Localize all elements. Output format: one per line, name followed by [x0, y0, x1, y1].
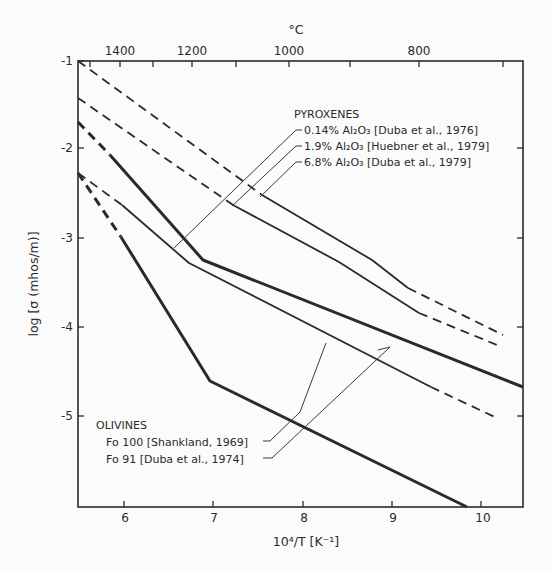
pyroxenes-heading: PYROXENES	[294, 108, 359, 121]
leader-olivine-fo91	[263, 347, 390, 458]
leader-pyroxene-0.14	[174, 130, 302, 248]
y-tick--1: -1	[61, 54, 73, 68]
top-tick-800: 800	[408, 44, 431, 58]
y-tick--5: -5	[61, 409, 73, 423]
leader-olivine-fo100	[263, 343, 326, 441]
top-axis-title: °C	[289, 22, 304, 37]
conductivity-chart: 1400 1200 1000 800 °C -1 -2 -3 -4 -5 log…	[0, 0, 552, 573]
x-tick-10: 10	[475, 511, 490, 525]
x-tick-7: 7	[210, 511, 218, 525]
olivines-heading: OLIVINES	[96, 419, 147, 432]
y-tick--2: -2	[61, 141, 73, 155]
x-tick-6: 6	[121, 511, 129, 525]
pyroxenes-legend: PYROXENES 0.14% Al₂O₃ [Duba et al., 1976…	[174, 108, 489, 248]
pyroxene-label-0.14: 0.14% Al₂O₃ [Duba et al., 1976]	[304, 124, 478, 137]
pyroxene-label-1.9: 1.9% Al₂O₃ [Huebner et al., 1979]	[304, 140, 489, 153]
olivine-label-fo91: Fo 91 [Duba et al., 1974]	[106, 453, 244, 466]
y-axis: -1 -2 -3 -4 -5 log [σ (mhos/m)]	[26, 54, 84, 423]
olivine-label-fo100: Fo 100 [Shankland, 1969]	[106, 436, 248, 449]
top-tick-1400: 1400	[105, 44, 136, 58]
x-tick-8: 8	[300, 511, 308, 525]
top-tick-1000: 1000	[274, 44, 305, 58]
leader-pyroxene-6.8	[260, 162, 302, 197]
y-tick--4: -4	[61, 320, 73, 334]
right-axis	[517, 148, 523, 416]
top-tick-1200: 1200	[177, 44, 208, 58]
y-tick--3: -3	[61, 231, 73, 245]
x-axis: 6 7 8 9 10 10⁴/T [K⁻¹]	[121, 501, 490, 549]
y-axis-title: log [σ (mhos/m)]	[26, 231, 41, 336]
pyroxene-label-6.8: 6.8% Al₂O₃ [Duba et al., 1979]	[304, 156, 471, 169]
x-tick-9: 9	[389, 511, 397, 525]
x-axis-title: 10⁴/T [K⁻¹]	[273, 534, 339, 549]
